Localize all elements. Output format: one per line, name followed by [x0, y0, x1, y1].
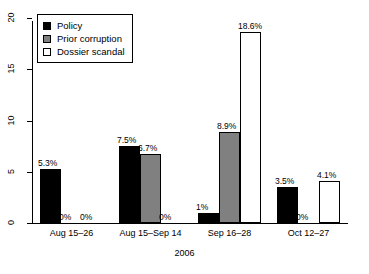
bar-chart: 05101520 5.3%0%0%7.5%6.7%0%1%8.9%18.6%3.… — [0, 0, 369, 274]
bar-prior — [140, 154, 161, 223]
y-axis-tick-label: 5 — [7, 160, 16, 182]
bar-group: 3.5%0%4.1% — [269, 18, 348, 223]
legend-swatch-dossier-scandal-icon — [43, 48, 51, 56]
bar-prior — [219, 132, 240, 223]
chart-legend: Policy Prior corruption Dossier scandal — [37, 14, 133, 63]
bar-value-label: 8.9% — [217, 122, 236, 131]
bar-value-label: 5.3% — [38, 159, 57, 168]
bar-value-label: 7.5% — [117, 136, 136, 145]
y-axis-tick-label: 20 — [7, 7, 16, 29]
bar-policy — [198, 213, 219, 223]
legend-swatch-policy-icon — [43, 22, 51, 30]
legend-label-prior-corruption: Prior corruption — [57, 34, 122, 44]
bar-value-label: 3.5% — [275, 177, 294, 186]
bar-value-label: 0% — [159, 213, 171, 222]
bar-policy — [119, 146, 140, 223]
y-axis-tick-label: 0 — [7, 212, 16, 234]
bar-value-label: 0% — [80, 213, 92, 222]
bar-group: 1%8.9%18.6% — [190, 18, 269, 223]
legend-swatch-prior-corruption-icon — [43, 35, 51, 43]
bar-dossier — [319, 181, 340, 223]
bar-value-label: 0% — [296, 213, 308, 222]
bar-policy — [277, 187, 298, 223]
x-axis-title: 2006 — [0, 248, 369, 258]
bar-value-label: 1% — [196, 203, 208, 212]
bar-dossier — [240, 32, 261, 223]
legend-item-prior-corruption: Prior corruption — [43, 32, 125, 45]
bar-value-label: 0% — [59, 213, 71, 222]
x-axis-line — [32, 223, 348, 224]
bar-value-label: 6.7% — [138, 144, 157, 153]
y-axis-tick-label: 15 — [7, 58, 16, 80]
x-axis-tick-label: Aug 15–26 — [32, 228, 111, 238]
legend-label-policy: Policy — [57, 21, 82, 31]
x-axis-tick-label: Aug 15–Sep 14 — [111, 228, 190, 238]
legend-item-policy: Policy — [43, 19, 125, 32]
legend-item-dossier-scandal: Dossier scandal — [43, 45, 125, 58]
legend-label-dossier-scandal: Dossier scandal — [57, 47, 125, 57]
bar-value-label: 4.1% — [317, 171, 336, 180]
y-axis-tick-label: 10 — [7, 109, 16, 131]
x-axis-tick-label: Sep 16–28 — [190, 228, 269, 238]
x-axis-tick-label: Oct 12–27 — [269, 228, 348, 238]
bar-policy — [40, 169, 61, 223]
bar-value-label: 18.6% — [238, 22, 262, 31]
